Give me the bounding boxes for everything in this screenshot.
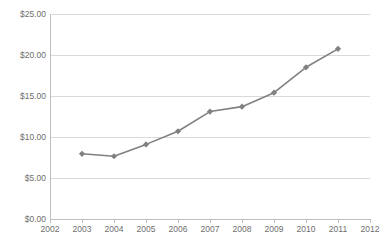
line-chart: $0.00$5.00$10.00$15.00$20.00$25.00 20022… xyxy=(0,0,388,244)
x-axis-tick-mark xyxy=(114,219,115,223)
x-axis-tick-mark xyxy=(210,219,211,223)
series-line xyxy=(82,49,338,156)
series-markers xyxy=(79,46,341,160)
x-axis-tick-mark xyxy=(370,219,371,223)
x-axis-tick-mark xyxy=(50,219,51,223)
x-axis-tick-mark xyxy=(146,219,147,223)
data-point-marker xyxy=(79,151,85,157)
x-axis-tick-mark xyxy=(306,219,307,223)
data-point-marker xyxy=(143,141,149,147)
x-axis-tick-mark xyxy=(82,219,83,223)
x-axis-tick-mark xyxy=(338,219,339,223)
x-axis-tick-mark xyxy=(178,219,179,223)
x-axis-tick-mark xyxy=(274,219,275,223)
x-axis-tick-mark xyxy=(242,219,243,223)
data-point-marker xyxy=(111,153,117,159)
data-series xyxy=(0,0,388,244)
data-point-marker xyxy=(239,104,245,110)
